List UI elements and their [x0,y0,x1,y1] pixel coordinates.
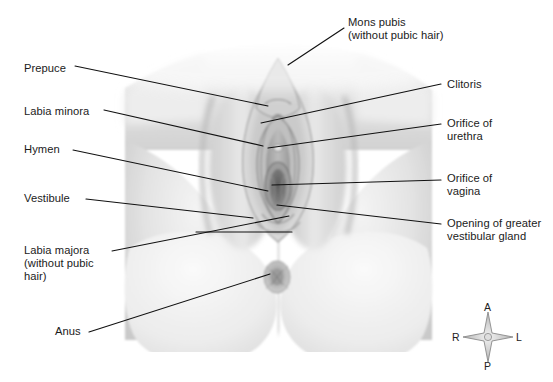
label-prepuce: Prepuce [24,62,66,75]
compass-label-posterior: P [484,360,491,372]
label-orifice-of-urethra: Orifice of urethra [447,117,492,143]
compass-label-left: L [516,331,522,343]
compass-label-anterior: A [484,301,491,313]
orientation-compass: A R L P [452,304,524,370]
anatomical-figure: Prepuce Labia minora Hymen Vestibule Lab… [0,0,553,382]
label-mons-pubis: Mons pubis (without pubic hair) [348,16,444,42]
label-clitoris: Clitoris [447,78,482,91]
label-labia-minora: Labia minora [24,105,89,118]
label-hymen: Hymen [24,143,60,156]
compass-label-right: R [452,331,460,343]
label-opening-of-greater-vestibular-gland: Opening of greater vestibular gland [447,217,541,243]
label-orifice-of-vagina: Orifice of vagina [447,172,492,198]
label-vestibule: Vestibule [24,192,70,205]
label-anus: Anus [55,325,81,338]
label-labia-majora: Labia majora (without pubic hair) [24,244,94,284]
